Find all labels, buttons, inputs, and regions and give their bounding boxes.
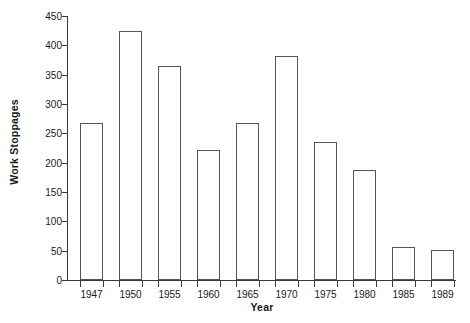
x-axis-tick-label: 1965 [228, 289, 268, 300]
y-axis-tick [62, 280, 67, 281]
y-axis-tick [62, 251, 67, 252]
y-axis-tick [62, 45, 67, 46]
y-axis-tick-label: 0 [32, 275, 62, 286]
bar [275, 56, 298, 280]
x-axis-title: Year [67, 301, 457, 313]
y-axis-tick [62, 133, 67, 134]
x-axis-tick [431, 281, 432, 287]
x-axis-tick [314, 281, 315, 287]
work-stoppages-bar-chart: Work Stoppages 0501001502002503003504004… [0, 0, 470, 323]
y-axis-title-text: Work Stoppages [8, 99, 20, 184]
x-axis-tick [259, 281, 260, 287]
x-axis-tick [119, 281, 120, 287]
bar [197, 150, 220, 280]
y-axis-tick [62, 75, 67, 76]
x-axis-tick [275, 281, 276, 287]
x-axis-tick-label: 1985 [384, 289, 424, 300]
x-axis-tick [298, 281, 299, 287]
bar [431, 250, 454, 281]
x-axis-tick [181, 281, 182, 287]
y-axis-tick [62, 16, 67, 17]
x-axis-tick [415, 281, 416, 287]
x-axis-tick-label: 1980 [345, 289, 385, 300]
x-axis-line [67, 280, 456, 281]
x-axis-tick-label: 1947 [72, 289, 112, 300]
x-axis-tick-label: 1950 [111, 289, 151, 300]
x-axis-tick [236, 281, 237, 287]
x-axis-tick [158, 281, 159, 287]
y-axis-tick-label: 450 [32, 11, 62, 22]
y-axis-tick-label: 350 [32, 69, 62, 80]
y-axis-tick-labels: 050100150200250300350400450 [28, 16, 62, 281]
x-axis-tick [337, 281, 338, 287]
bar [392, 247, 415, 280]
y-axis-tick [62, 192, 67, 193]
x-axis-tick [376, 281, 377, 287]
y-axis-line [67, 16, 68, 281]
y-axis-tick-label: 100 [32, 216, 62, 227]
y-axis-tick-label: 200 [32, 157, 62, 168]
x-axis-tick [197, 281, 198, 287]
x-axis-tick-label: 1955 [150, 289, 190, 300]
y-axis-tick-label: 400 [32, 40, 62, 51]
y-axis-tick [62, 221, 67, 222]
x-axis-tick [353, 281, 354, 287]
x-axis-tick [392, 281, 393, 287]
bar [314, 142, 337, 280]
x-axis-tick [220, 281, 221, 287]
y-axis-tick [62, 163, 67, 164]
y-axis-tick-label: 50 [32, 245, 62, 256]
x-axis-tick [454, 281, 455, 287]
x-axis-tick-label: 1960 [189, 289, 229, 300]
x-axis-tick [80, 281, 81, 287]
x-axis-tick [142, 281, 143, 287]
y-axis-tick-label: 250 [32, 128, 62, 139]
bar [158, 66, 181, 280]
bar [119, 31, 142, 280]
x-axis-tick-label: 1970 [267, 289, 307, 300]
y-axis-tick [62, 104, 67, 105]
x-axis-tick-label: 1975 [306, 289, 346, 300]
y-axis-title: Work Stoppages [0, 0, 28, 283]
y-axis-tick-label: 300 [32, 99, 62, 110]
bar [80, 123, 103, 280]
plot-area: 1947195019551960196519701975198019851989 [67, 16, 456, 281]
bar [236, 123, 259, 280]
y-axis-tick-label: 150 [32, 187, 62, 198]
x-axis-tick-label: 1989 [423, 289, 463, 300]
bar [353, 170, 376, 280]
x-axis-tick [103, 281, 104, 287]
